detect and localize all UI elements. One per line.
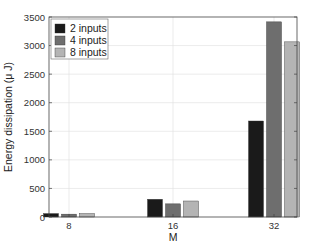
bar: [249, 121, 264, 217]
y-axis-label: Energy dissipation (μ J): [2, 62, 14, 172]
legend-entry: 4 inputs: [70, 34, 107, 46]
y-tick-label: 2000: [24, 97, 45, 108]
bar: [184, 201, 199, 217]
y-tick-label: 0: [40, 212, 45, 223]
bar-chart: 0500100015002000250030003500 81632 M Ene…: [0, 0, 312, 248]
x-tick-label: 32: [269, 220, 280, 231]
bar: [44, 214, 59, 217]
x-tick-label: 16: [168, 220, 179, 231]
y-tick-label: 500: [29, 183, 45, 194]
legend-entry: 8 inputs: [70, 46, 107, 58]
legend-swatch: [55, 24, 65, 33]
x-axis-label: M: [169, 231, 178, 243]
bar: [80, 214, 95, 217]
legend: 2 inputs4 inputs8 inputs: [51, 19, 108, 59]
legend-entry: 2 inputs: [70, 22, 107, 34]
y-tick-label: 1500: [24, 126, 45, 137]
y-tick-label: 2500: [24, 69, 45, 80]
x-tick-label: 8: [66, 220, 71, 231]
y-tick-label: 3000: [24, 40, 45, 51]
x-axis-ticks: 81632: [66, 214, 279, 231]
y-tick-label: 1000: [24, 154, 45, 165]
bar-group: [249, 22, 300, 217]
bar: [148, 199, 163, 217]
legend-swatch: [55, 48, 65, 57]
bar: [267, 22, 282, 217]
y-tick-label: 3500: [24, 12, 45, 23]
legend-swatch: [55, 36, 65, 45]
